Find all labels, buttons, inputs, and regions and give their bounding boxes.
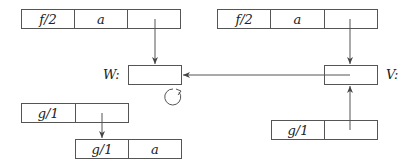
self-loop-icon [165,89,181,105]
edges-layer [0,0,420,167]
